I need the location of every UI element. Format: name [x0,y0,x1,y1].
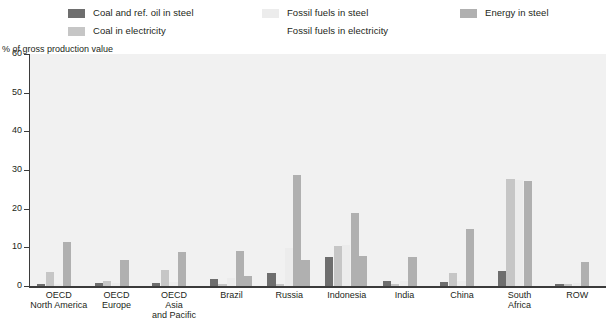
x-label-line: and Pacific [145,310,203,318]
y-tick-label: 20 [0,204,22,213]
x-label-line: Africa [491,300,549,310]
bar [457,281,465,286]
x-axis-label: OECDAsiaand Pacific [145,290,203,318]
bar [178,252,186,286]
bar-group [30,54,88,286]
y-tick-label: 30 [0,165,22,174]
y-tick-label: 60 [0,49,22,58]
bar [334,246,342,286]
x-label-line: Brazil [203,290,261,300]
bar-group [88,54,146,286]
x-label-line: China [433,290,491,300]
x-axis-label: India [376,290,434,300]
bar [440,282,448,286]
chart-legend: Coal and ref. oil in steel Coal in elect… [0,0,609,42]
bar [573,283,581,286]
x-label-line: OECD [145,290,203,300]
bar [267,273,275,286]
x-label-line: OECD [30,290,88,300]
bar [400,281,408,286]
bar-series-container [30,54,606,286]
x-axis-labels: OECDNorth AmericaOECDEuropeOECDAsiaand P… [30,290,606,318]
x-axis-line [29,286,606,288]
bar [210,279,218,286]
bar [95,283,103,286]
x-axis-label: Russia [260,290,318,300]
x-axis-label: SouthAfrica [491,290,549,310]
bar [449,273,457,286]
bar [63,242,71,286]
bar-group [318,54,376,286]
bar [351,213,359,286]
x-axis-label: Indonesia [318,290,376,300]
x-label-line: ROW [548,290,606,300]
legend-label: Energy in steel [485,8,549,18]
bar [120,260,128,286]
legend-column-2: Fossil fuels in steel Fossil fuels in el… [262,6,388,42]
y-tick-label: 40 [0,126,22,135]
legend-column-3: Energy in steel [460,6,549,24]
bar [276,284,284,286]
legend-label: Fossil fuels in steel [287,8,368,18]
bar [359,256,367,286]
x-label-line: Asia [145,300,203,310]
bar [555,284,563,286]
bar [325,257,333,286]
bar [342,245,350,286]
bar [408,257,416,286]
bar-group [376,54,434,286]
bar-group [203,54,261,286]
legend-swatch-icon [460,9,477,18]
y-tick-label: 50 [0,88,22,97]
x-label-line: India [376,290,434,300]
bar [227,278,235,286]
legend-label: Coal and ref. oil in steel [93,8,194,18]
bar-group [145,54,203,286]
x-label-line: OECD [88,290,146,300]
bar [46,272,54,286]
bar [466,229,474,286]
x-label-line: South [491,290,549,300]
legend-label: Fossil fuels in electricity [287,26,388,36]
bar [103,281,111,286]
bar [285,248,293,286]
y-tick-label: 10 [0,242,22,251]
bar [515,180,523,286]
bar [391,284,399,286]
legend-item-fossil-fuels-in-electricity: Fossil fuels in electricity [262,24,388,38]
x-axis-label: Brazil [203,290,261,300]
bar [112,283,120,286]
bar [54,284,62,286]
bar [218,284,226,286]
legend-swatch-icon [262,27,279,36]
bar [152,283,160,286]
bar [383,281,391,286]
bar [169,282,177,286]
bar-group [433,54,491,286]
x-axis-label: OECDEurope [88,290,146,310]
x-label-line: Russia [260,290,318,300]
x-axis-label: ROW [548,290,606,300]
x-label-line: Europe [88,300,146,310]
bar-group [260,54,318,286]
legend-item-coal-and-ref-oil-in-steel: Coal and ref. oil in steel [68,6,194,20]
bar [244,276,252,286]
legend-label: Coal in electricity [93,26,166,36]
bar-group [491,54,549,286]
chart-plot-area: 0102030405060 OECDNorth AmericaOECDEurop… [0,52,609,318]
bar [161,270,169,286]
bar [524,181,532,286]
bar [301,260,309,286]
bar [506,179,514,286]
y-tick-mark [24,286,30,287]
bar [581,262,589,286]
bar [498,271,506,286]
bar-group [548,54,606,286]
x-label-line: Indonesia [318,290,376,300]
legend-item-fossil-fuels-in-steel: Fossil fuels in steel [262,6,388,20]
legend-item-coal-in-electricity: Coal in electricity [68,24,194,38]
bar [236,251,244,286]
legend-column-1: Coal and ref. oil in steel Coal in elect… [68,6,194,42]
x-axis-label: China [433,290,491,300]
legend-swatch-icon [68,27,85,36]
